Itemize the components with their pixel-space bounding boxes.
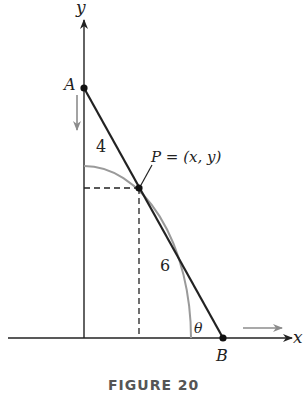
x-axis-label: x (293, 327, 303, 347)
point-p-label: P = (x, y) (150, 148, 222, 166)
figure-20: y x A B P = (x, y) 4 6 θ FIGURE 20 (0, 0, 304, 394)
point-b (219, 334, 226, 341)
angle-theta-label: θ (194, 320, 203, 336)
figure-caption: FIGURE 20 (108, 377, 199, 393)
y-axis-label: y (75, 0, 86, 17)
p-leader-line (141, 165, 152, 185)
ladder-diagram: y x A B P = (x, y) 4 6 θ FIGURE 20 (0, 0, 304, 394)
point-p (135, 184, 142, 191)
point-b-label: B (215, 346, 228, 365)
point-a-label: A (62, 75, 76, 94)
segment-label-4: 4 (96, 137, 106, 156)
segment-label-6: 6 (160, 256, 170, 275)
ladder-segment (84, 88, 223, 338)
point-a (80, 84, 87, 91)
